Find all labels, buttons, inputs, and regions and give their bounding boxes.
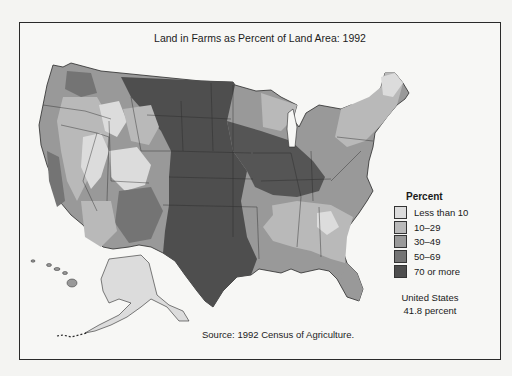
legend-label: 30–49 <box>414 236 440 247</box>
legend-item: 30–49 <box>394 235 468 250</box>
legend-swatch-30-49 <box>394 235 407 248</box>
legend-item: 70 or more <box>394 264 468 279</box>
summary-value: 41.8 percent <box>390 304 470 317</box>
legend-label: 50–69 <box>414 251 440 262</box>
legend-item: 10–29 <box>394 220 468 235</box>
legend-item: 50–69 <box>394 249 468 264</box>
legend-label: Less than 10 <box>414 207 468 218</box>
source-note: Source: 1992 Census of Agriculture. <box>202 329 354 340</box>
contiguous-us <box>39 63 409 307</box>
map-figure-frame: Land in Farms as Percent of Land Area: 1… <box>19 22 501 360</box>
us-summary: United States 41.8 percent <box>390 291 470 317</box>
legend-swatch-50-69 <box>394 250 407 263</box>
hawaii <box>31 260 77 287</box>
legend-swatch-less-than-10 <box>394 206 407 219</box>
legend-swatch-70-or-more <box>394 265 407 278</box>
summary-label: United States <box>390 291 470 304</box>
legend: Percent Less than 10 10–29 30–49 50–69 7… <box>394 191 468 279</box>
legend-swatch-10-29 <box>394 221 407 234</box>
legend-label: 10–29 <box>414 222 440 233</box>
legend-title: Percent <box>406 191 468 202</box>
alaska <box>85 255 189 333</box>
legend-item: Less than 10 <box>394 205 468 220</box>
legend-label: 70 or more <box>414 266 460 277</box>
